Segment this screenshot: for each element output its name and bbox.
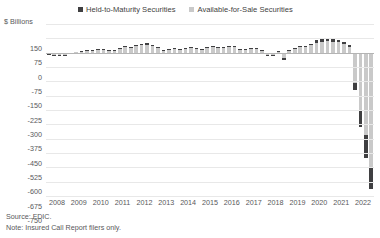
gridline [46, 196, 374, 197]
gridline [46, 167, 374, 168]
y-axis-tick-label: -300 [28, 130, 42, 139]
bar-segment-available-for-sale [320, 42, 324, 53]
bar-segment-held-to-maturity [266, 55, 270, 56]
bar-segment-held-to-maturity [211, 46, 215, 47]
x-axis-tick-label: 2018 [268, 198, 284, 207]
bar-segment-held-to-maturity [309, 44, 313, 46]
bar-segment-held-to-maturity [277, 51, 281, 52]
gridline [46, 139, 374, 140]
bar-segment-held-to-maturity [293, 48, 297, 49]
y-axis-tick-label: -150 [28, 101, 42, 110]
y-axis-tick-label: -450 [28, 158, 42, 167]
bar-segment-held-to-maturity [200, 49, 204, 50]
y-axis-tick-label: -525 [28, 173, 42, 182]
bar-segment-held-to-maturity [353, 83, 357, 90]
bar-segment-held-to-maturity [337, 40, 341, 42]
bar-segment-held-to-maturity [162, 50, 166, 51]
x-axis-tick-label: 2010 [93, 198, 109, 207]
gridline [46, 124, 374, 125]
y-axis-tick-label: -375 [28, 144, 42, 153]
bar-segment-held-to-maturity [348, 45, 352, 47]
x-axis-tick-label: 2014 [180, 198, 196, 207]
bar-segment-available-for-sale [140, 45, 144, 53]
bar-segment-held-to-maturity [58, 55, 62, 56]
footnote-source: Source: FDIC. [6, 212, 121, 223]
chart-footnotes: Source: FDIC. Note: Insured Call Report … [6, 212, 121, 233]
gridline [46, 24, 374, 25]
chart-legend: Held-to-Maturity Securities Available-fo… [78, 5, 293, 14]
bar-segment-held-to-maturity [129, 47, 133, 48]
bar-segment-held-to-maturity [189, 47, 193, 48]
bar-segment-held-to-maturity [184, 48, 188, 49]
bar-segment-held-to-maturity [298, 46, 302, 47]
bar-segment-held-to-maturity [151, 45, 155, 46]
bar-segment-held-to-maturity [156, 47, 160, 48]
bar-segment-held-to-maturity [178, 49, 182, 50]
bar-segment-held-to-maturity [227, 46, 231, 47]
x-axis-tick-label: 2020 [311, 198, 327, 207]
y-axis-labels: 150750-75-150-225-300-375-450-525-600-67… [0, 24, 42, 196]
bar-segment-available-for-sale [134, 46, 138, 52]
gridline [46, 110, 374, 111]
bar-segment-held-to-maturity [369, 167, 373, 189]
gridline [46, 38, 374, 39]
x-axis-tick-label: 2017 [246, 198, 262, 207]
bar-segment-available-for-sale [337, 42, 341, 52]
bar-segment-held-to-maturity [287, 50, 291, 51]
bar-segment-available-for-sale [145, 45, 149, 53]
bar-segment-held-to-maturity [222, 47, 226, 48]
x-axis-tick-label: 2013 [158, 198, 174, 207]
bar-segment-held-to-maturity [320, 39, 324, 41]
x-axis-tick-label: 2016 [224, 198, 240, 207]
bar-segment-available-for-sale [151, 46, 155, 53]
footnote-note: Note: Insured Call Report filers only. [6, 223, 121, 234]
plot-area [46, 24, 374, 196]
bar-segment-held-to-maturity [47, 54, 51, 55]
bar-segment-held-to-maturity [282, 58, 286, 60]
bar-segment-held-to-maturity [260, 50, 264, 51]
legend-item-held-to-maturity: Held-to-Maturity Securities [78, 5, 175, 14]
gridline [46, 67, 374, 68]
x-axis-tick-label: 2011 [115, 198, 130, 207]
bar-segment-available-for-sale [326, 41, 330, 52]
x-axis-tick-label: 2015 [202, 198, 218, 207]
bar-segment-held-to-maturity [107, 50, 111, 51]
bar-segment-available-for-sale [315, 43, 319, 53]
bar-segment-held-to-maturity [134, 45, 138, 46]
bar-segment-held-to-maturity [91, 50, 95, 51]
bar-segment-held-to-maturity [238, 49, 242, 50]
bar-segment-held-to-maturity [63, 55, 67, 56]
bar-segment-held-to-maturity [249, 48, 253, 49]
bar-segment-held-to-maturity [195, 48, 199, 49]
bar-segment-held-to-maturity [80, 51, 84, 52]
bar-segment-held-to-maturity [173, 48, 177, 49]
legend-label-held-to-maturity: Held-to-Maturity Securities [86, 5, 175, 14]
y-axis-tick-label: -600 [28, 187, 42, 196]
y-axis-tick-label: 75 [34, 58, 42, 67]
bar-segment-held-to-maturity [123, 46, 127, 47]
y-axis-tick-label: -675 [28, 201, 42, 210]
bar-segment-held-to-maturity [145, 43, 149, 44]
zero-line [46, 53, 374, 54]
bar-segment-available-for-sale [331, 42, 335, 53]
bar-segment-held-to-maturity [113, 50, 117, 51]
bar-segment-held-to-maturity [315, 40, 319, 42]
bar-segment-held-to-maturity [118, 48, 122, 49]
bar-segment-held-to-maturity [304, 46, 308, 47]
y-axis-tick-label: -225 [28, 115, 42, 124]
bar-segment-held-to-maturity [96, 49, 100, 50]
x-axis-tick-label: 2012 [136, 198, 152, 207]
bar-segment-held-to-maturity [255, 48, 259, 49]
x-axis-tick-label: 2022 [355, 198, 371, 207]
bar-segment-held-to-maturity [52, 55, 56, 56]
bar-segment-held-to-maturity [140, 44, 144, 45]
y-axis-tick-label: 150 [30, 44, 42, 53]
square-marker-dark-icon [78, 7, 83, 12]
x-axis-tick-label: 2021 [333, 198, 349, 207]
bar-segment-available-for-sale [364, 53, 368, 135]
bar-segment-held-to-maturity [342, 42, 346, 44]
legend-item-available-for-sale: Available-for-Sale Securities [189, 5, 292, 14]
bar-segment-held-to-maturity [167, 49, 171, 50]
bar-segment-held-to-maturity [216, 47, 220, 48]
y-axis-tick-label: -75 [32, 87, 42, 96]
